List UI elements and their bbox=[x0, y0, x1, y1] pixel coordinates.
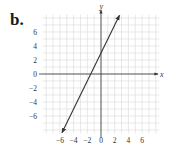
y-tick-label: −2 bbox=[29, 84, 37, 93]
x-axis-label: x bbox=[159, 70, 164, 79]
y-tick-label: 4 bbox=[33, 42, 37, 51]
y-tick-label: −4 bbox=[29, 98, 37, 107]
x-tick-label: −2 bbox=[83, 136, 91, 145]
axes: xy bbox=[39, 2, 164, 138]
y-tick-label: 2 bbox=[33, 56, 37, 65]
y-axis-label: y bbox=[99, 2, 104, 11]
x-tick-label: 4 bbox=[127, 136, 131, 145]
coordinate-plane: xy −6−4−202466420−2−4−6 bbox=[0, 0, 173, 146]
y-tick-label: 0 bbox=[33, 70, 37, 79]
x-tick-label: −6 bbox=[56, 136, 64, 145]
y-tick-label: 6 bbox=[33, 28, 37, 37]
x-tick-label: 6 bbox=[140, 136, 144, 145]
y-tick-label: −6 bbox=[29, 112, 37, 121]
x-tick-label: 2 bbox=[113, 136, 117, 145]
x-tick-label: 0 bbox=[99, 136, 103, 145]
x-tick-label: −4 bbox=[70, 136, 78, 145]
